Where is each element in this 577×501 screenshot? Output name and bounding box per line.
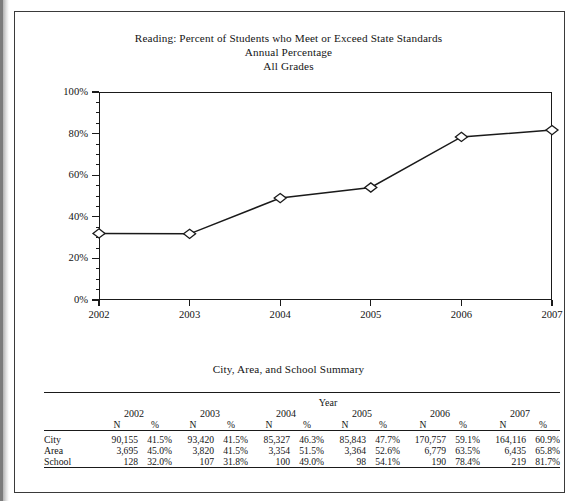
- summary-table-container: Year 200220032004200520062007 N%N%N%N%N%…: [44, 392, 533, 471]
- cell-count: 219: [480, 456, 526, 468]
- cell-percent: 54.1%: [366, 456, 400, 468]
- table-subheader-row: N%N%N%N%N%N%: [44, 419, 560, 431]
- table-group-header-row: Year: [44, 397, 560, 408]
- cell-percent: 32.0%: [138, 456, 172, 468]
- series-line: [99, 130, 552, 234]
- cell-percent: 41.5%: [214, 445, 248, 456]
- cell-percent: 47.7%: [366, 434, 400, 445]
- data-point-marker: [274, 193, 286, 202]
- column-subheader-pct: %: [526, 419, 560, 431]
- cell-count: 3,364: [324, 445, 366, 456]
- cell-percent: 41.5%: [138, 434, 172, 445]
- cell-percent: 45.0%: [138, 445, 172, 456]
- column-subheader-n: N: [172, 419, 214, 431]
- cell-count: 100: [248, 456, 290, 468]
- column-header-year: 2003: [172, 408, 248, 419]
- x-axis-tick-label: 2006: [431, 309, 491, 320]
- group-header-year: Year: [96, 397, 560, 408]
- column-subheader-n: N: [96, 419, 138, 431]
- row-label: City: [44, 434, 96, 445]
- column-subheader-n: N: [324, 419, 366, 431]
- x-axis-tick-label: 2004: [250, 309, 310, 320]
- cell-percent: 46.3%: [290, 434, 324, 445]
- column-subheader-n: N: [400, 419, 446, 431]
- cell-count: 6,435: [480, 445, 526, 456]
- cell-percent: 65.8%: [526, 445, 560, 456]
- table-row: Area3,69545.0%3,82041.5%3,35451.5%3,3645…: [44, 445, 560, 456]
- cell-count: 85,843: [324, 434, 366, 445]
- cell-percent: 60.9%: [526, 434, 560, 445]
- cell-count: 3,354: [248, 445, 290, 456]
- x-axis-tick-label: 2007: [522, 309, 577, 320]
- cell-percent: 52.6%: [366, 445, 400, 456]
- column-subheader-n: N: [480, 419, 526, 431]
- cell-count: 3,695: [96, 445, 138, 456]
- column-header-year: 2004: [248, 408, 324, 419]
- cell-count: 128: [96, 456, 138, 468]
- column-subheader-pct: %: [214, 419, 248, 431]
- x-axis-tick: [461, 300, 462, 306]
- series-school-line: [99, 92, 552, 300]
- column-header-year: 2002: [96, 408, 172, 419]
- data-point-marker: [184, 229, 196, 238]
- row-label: School: [44, 456, 96, 468]
- cell-percent: 81.7%: [526, 456, 560, 468]
- cell-count: 85,327: [248, 434, 290, 445]
- column-header-year: 2005: [324, 408, 400, 419]
- x-axis-tick: [551, 300, 552, 306]
- cell-percent: 63.5%: [446, 445, 480, 456]
- cell-count: 190: [400, 456, 446, 468]
- cell-percent: 59.1%: [446, 434, 480, 445]
- table-rule-bottom: [44, 468, 560, 472]
- cell-count: 107: [172, 456, 214, 468]
- x-axis-tick-label: 2002: [69, 309, 129, 320]
- column-subheader-pct: %: [138, 419, 172, 431]
- cell-count: 6,779: [400, 445, 446, 456]
- cell-count: 90,155: [96, 434, 138, 445]
- column-subheader-pct: %: [290, 419, 324, 431]
- data-point-marker: [365, 183, 377, 192]
- table-year-header-row: 200220032004200520062007: [44, 408, 560, 419]
- data-point-marker: [455, 132, 467, 141]
- cell-percent: 78.4%: [446, 456, 480, 468]
- cell-percent: 51.5%: [290, 445, 324, 456]
- cell-count: 93,420: [172, 434, 214, 445]
- x-axis-tick: [370, 300, 371, 306]
- column-subheader-n: N: [248, 419, 290, 431]
- cell-count: 170,757: [400, 434, 446, 445]
- cell-percent: 41.5%: [214, 434, 248, 445]
- cell-count: 98: [324, 456, 366, 468]
- table-title: City, Area, and School Summary: [0, 363, 577, 375]
- row-label: Area: [44, 445, 96, 456]
- x-axis-tick-label: 2005: [341, 309, 401, 320]
- table-row: School12832.0%10731.8%10049.0%9854.1%190…: [44, 456, 560, 468]
- summary-table: Year 200220032004200520062007 N%N%N%N%N%…: [44, 392, 560, 471]
- table-row: City90,15541.5%93,42041.5%85,32746.3%85,…: [44, 434, 560, 445]
- cell-count: 3,820: [172, 445, 214, 456]
- column-subheader-pct: %: [366, 419, 400, 431]
- cell-percent: 49.0%: [290, 456, 324, 468]
- column-header-year: 2007: [480, 408, 560, 419]
- cell-percent: 31.8%: [214, 456, 248, 468]
- x-axis-tick: [98, 300, 99, 306]
- column-header-year: 2006: [400, 408, 480, 419]
- x-axis-tick: [189, 300, 190, 306]
- column-subheader-pct: %: [446, 419, 480, 431]
- x-axis-tick-label: 2003: [160, 309, 220, 320]
- chart-figure: Reading: Percent of Students who Meet or…: [0, 0, 577, 340]
- x-axis-tick: [280, 300, 281, 306]
- cell-count: 164,116: [480, 434, 526, 445]
